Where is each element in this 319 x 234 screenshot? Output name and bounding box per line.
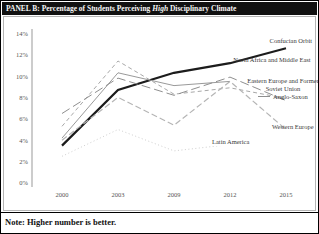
x-tick-2003: 2003 xyxy=(98,191,138,198)
panel-title-italic-word: High xyxy=(152,4,168,13)
anglo-saxon-dash-key-icon xyxy=(258,96,270,97)
line-eastern-europe-and-former-soviet-union xyxy=(62,61,286,126)
series-label-latin-america: Latin America xyxy=(210,138,251,146)
series-label-western-europe: Western Europe xyxy=(272,123,314,131)
x-tick-2015: 2015 xyxy=(266,191,306,198)
x-tick-2009: 2009 xyxy=(154,191,194,198)
panel-title-prefix: PANEL B: Percentage of Students Perceivi… xyxy=(6,4,152,13)
panel-title-suffix: Disciplinary Climate xyxy=(168,4,236,13)
y-tick-10: 10% xyxy=(6,73,28,80)
y-tick-4: 4% xyxy=(6,137,28,144)
y-tick-14: 14% xyxy=(6,30,28,37)
panel-title-bar: PANEL B: Percentage of Students Perceivi… xyxy=(2,2,317,15)
x-tick-2012: 2012 xyxy=(210,191,250,198)
series-label-north-africa-middle-east: North Africa and Middle East xyxy=(228,56,316,64)
y-tick-8: 8% xyxy=(6,94,28,101)
line-latin-america xyxy=(62,130,230,157)
line-north-africa-and-middle-east xyxy=(62,73,230,138)
anglo-saxon-label-text: Anglo-Saxon xyxy=(273,93,308,100)
chart-panel: 14% 12% 10% 8% 6% 4% 2% 0% 2000 2003 200… xyxy=(3,16,316,211)
y-tick-12: 12% xyxy=(6,51,28,58)
series-label-eastern-europe-former-soviet-union: Eastern Europe and Former Soviet Union xyxy=(247,77,319,92)
note-bar: Note: Higher number is better. xyxy=(1,212,318,233)
series-label-anglo-saxon: Anglo-Saxon xyxy=(258,93,308,101)
figure-frame: PANEL B: Percentage of Students Perceivi… xyxy=(0,0,319,234)
series-label-confucian-orbit: Confucian Orbit xyxy=(242,37,312,45)
y-tick-2: 2% xyxy=(6,158,28,165)
x-tick-2000: 2000 xyxy=(42,191,82,198)
y-tick-6: 6% xyxy=(6,115,28,122)
y-tick-0: 0% xyxy=(6,179,28,186)
line-chart xyxy=(4,17,315,210)
